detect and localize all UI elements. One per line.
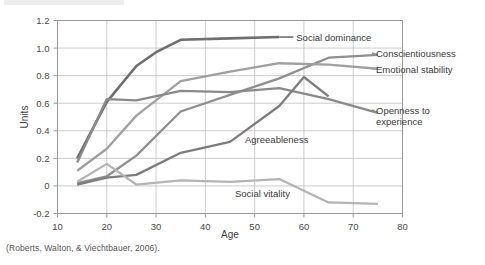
series-label: Social vitality <box>235 188 290 199</box>
x-tick-label: 30 <box>151 221 162 232</box>
x-tick-label: 50 <box>249 221 260 232</box>
figure-container: 1.21.00.80.60.40.20-0.2 1020304050607080… <box>0 0 485 265</box>
y-tick-label: 0.4 <box>36 125 49 136</box>
series-label: Social dominance <box>296 32 371 43</box>
gridlines-group <box>58 21 403 214</box>
scan-artifact <box>4 0 124 5</box>
x-tick-label: 80 <box>397 221 408 232</box>
x-tick-label: 70 <box>348 221 359 232</box>
series-label: Agreeableness <box>245 134 309 145</box>
y-tick-label: 1.2 <box>36 15 49 26</box>
data-series-line <box>77 55 378 183</box>
data-series-line <box>77 63 378 171</box>
x-tick-label: 20 <box>101 221 112 232</box>
y-tick-label: 0.6 <box>36 98 49 109</box>
x-tick-label: 40 <box>200 221 211 232</box>
source-caption: (Roberts, Walton, & Viechtbauer, 2006). <box>6 243 160 253</box>
data-series-line <box>77 88 378 162</box>
y-tick-label: 1.0 <box>36 43 49 54</box>
series-label: Emotional stability <box>376 64 453 75</box>
series-label: Conscientiousness <box>376 48 456 59</box>
x-axis-title: Age <box>221 229 239 240</box>
y-tick-label: 0.2 <box>36 153 49 164</box>
x-tick-label: 10 <box>52 221 63 232</box>
y-axis-title: Units <box>19 106 30 129</box>
y-tick-labels: 1.21.00.80.60.40.20-0.2 <box>33 15 49 219</box>
y-tick-label: 0 <box>44 180 49 191</box>
tickmarks-group <box>54 21 403 218</box>
data-series-group <box>77 37 378 204</box>
x-tick-label: 60 <box>299 221 310 232</box>
data-series-line <box>77 164 378 204</box>
series-label: Openness toexperience <box>376 105 430 127</box>
y-tick-label: 0.8 <box>36 70 49 81</box>
y-tick-label: -0.2 <box>33 208 49 219</box>
line-chart: 1.21.00.80.60.40.20-0.2 1020304050607080… <box>0 0 485 242</box>
plot-frame <box>58 21 403 214</box>
